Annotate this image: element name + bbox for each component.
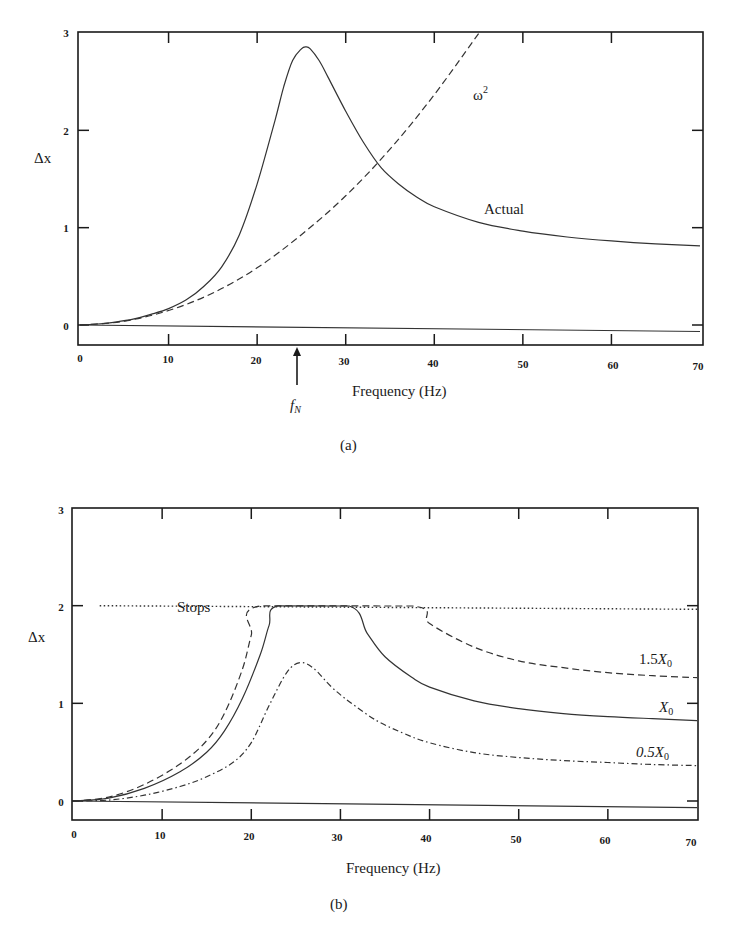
xtick-label: 10 [155,829,167,841]
panel-a-caption: (a) [340,437,357,454]
xtick-label: 70 [686,836,698,848]
ytick-label: 2 [58,601,64,613]
xtick-labels: 0 10 20 30 40 50 60 70 [77,352,704,372]
ytick-label: 1 [63,222,69,234]
series-label-x0: X0 [658,699,673,717]
y-axis-title: Δx [28,629,46,645]
actual-label: Actual [484,201,524,217]
axis-ticks [72,508,698,820]
xtick-label: 20 [251,354,263,366]
omega-squared-label: ω2 [473,84,488,103]
xtick-label: 20 [244,830,256,842]
xtick-label: 10 [163,353,175,365]
xtick-label: 40 [421,832,433,844]
xtick-label: 50 [518,358,530,370]
stops-label: Stops [177,599,211,615]
xtick-label: 30 [332,831,344,843]
xtick-label: 70 [693,360,705,372]
series-label-1.5x0: 1.5X0 [639,651,672,669]
xtick-label: 60 [600,834,612,846]
panel-b-caption: (b) [330,896,348,913]
plot-frame [72,508,698,820]
natural-frequency-arrow-icon [293,347,301,385]
ytick-label: 0 [63,320,69,332]
figure: 3 2 1 0 0 10 20 30 40 50 60 70 Δx Freque… [0,0,734,942]
xtick-label: 30 [339,355,351,367]
x-axis-title: Frequency (Hz) [352,383,447,400]
series-line-Actual [80,47,700,325]
series-label-0.5x0: 0.5X0 [636,744,669,762]
plot-frame [78,32,703,345]
natural-frequency-label: fN [290,397,302,415]
chart-panel-b: 3 2 1 0 0 10 20 30 40 50 60 70 Δx Freque… [28,504,698,913]
ytick-label: 0 [58,796,64,808]
ytick-label: 3 [58,504,64,516]
xtick-label: 0 [71,828,77,840]
xtick-label: 60 [608,359,620,371]
xtick-label: 0 [77,352,83,364]
ytick-label: 3 [63,27,69,39]
xtick-labels: 0 10 20 30 40 50 60 70 [71,828,697,848]
ytick-label: 1 [58,698,64,710]
y-axis-title: Δx [34,150,52,166]
series-line-X₀ [73,606,697,801]
xtick-label: 40 [428,357,440,369]
series-line-zero-baseline [73,801,697,808]
series-line-zero-baseline [80,325,700,332]
series-line-0.5X₀ [73,662,697,801]
x-axis-title: Frequency (Hz) [346,860,441,877]
series-line-ω² [80,34,479,326]
chart-panel-a: 3 2 1 0 0 10 20 30 40 50 60 70 Δx Freque… [34,27,704,454]
xtick-label: 50 [511,833,523,845]
axis-ticks [78,32,703,345]
curves [80,34,700,332]
series-line-1.5X₀ [73,606,697,801]
ytick-label: 2 [63,125,69,137]
curves [73,606,697,808]
